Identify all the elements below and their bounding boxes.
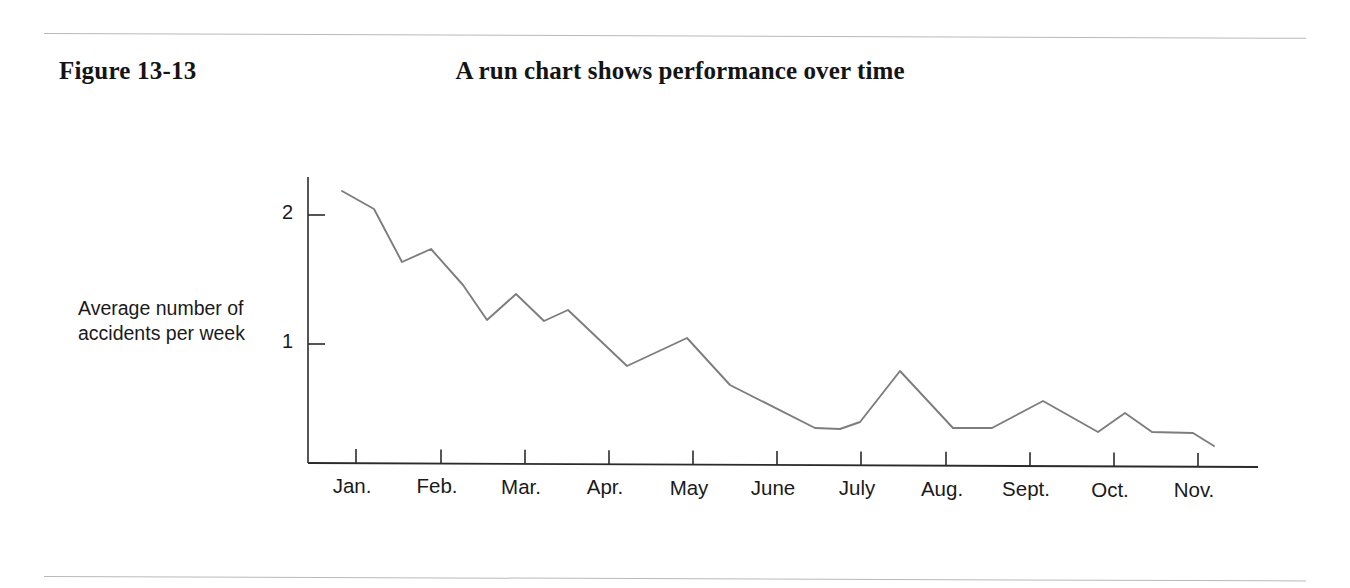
chart-axes bbox=[308, 177, 1258, 467]
y-axis-tick-label: 2 bbox=[263, 201, 293, 224]
y-axis-title: Average number of accidents per week bbox=[78, 296, 278, 346]
x-axis-tick-label: July bbox=[839, 476, 875, 500]
run-chart-canvas bbox=[0, 0, 1350, 588]
x-axis-tick-label: May bbox=[670, 476, 709, 500]
y-axis-tick-label: 1 bbox=[263, 330, 293, 353]
x-axis-tick-label: Jan. bbox=[333, 474, 372, 498]
y-axis-ticks bbox=[308, 215, 325, 344]
y-axis-title-line-1: Average number of bbox=[78, 296, 278, 321]
x-axis-tick-label: Sept. bbox=[1002, 477, 1050, 501]
x-axis-tick-label: Nov. bbox=[1174, 478, 1215, 502]
x-axis-tick-label: Aug. bbox=[921, 477, 963, 501]
x-axis-tick-label: Apr. bbox=[587, 475, 623, 499]
x-axis-tick-label: Feb. bbox=[416, 474, 457, 498]
run-chart-data-line bbox=[342, 191, 1214, 446]
x-axis-tick-label: Oct. bbox=[1091, 478, 1129, 502]
x-axis-tick-label: Mar. bbox=[501, 475, 541, 499]
x-axis-tick-label: June bbox=[751, 476, 795, 500]
x-axis-line bbox=[308, 463, 1258, 467]
run-chart: Average number of accidents per week 21 … bbox=[0, 0, 1350, 588]
y-axis-title-line-2: accidents per week bbox=[78, 321, 278, 346]
figure-page: Figure 13-13 A run chart shows performan… bbox=[0, 0, 1350, 588]
